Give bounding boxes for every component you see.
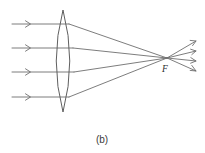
optics-ray-diagram: F (b): [0, 0, 205, 153]
ray-diagram-figure: F (b): [0, 0, 205, 153]
diverging-rays-group: [167, 40, 196, 71]
incoming-ray-2: [12, 45, 73, 51]
refracted-rays-group: [69, 24, 167, 97]
focal-point-label: F: [161, 64, 168, 74]
figure-caption: (b): [96, 134, 108, 145]
refracted-ray-3: [74, 58, 167, 72]
incoming-rays-group: [12, 21, 74, 100]
refracted-ray-4: [69, 58, 167, 97]
incoming-ray-3: [12, 69, 74, 75]
diverging-ray-2: [167, 49, 196, 58]
